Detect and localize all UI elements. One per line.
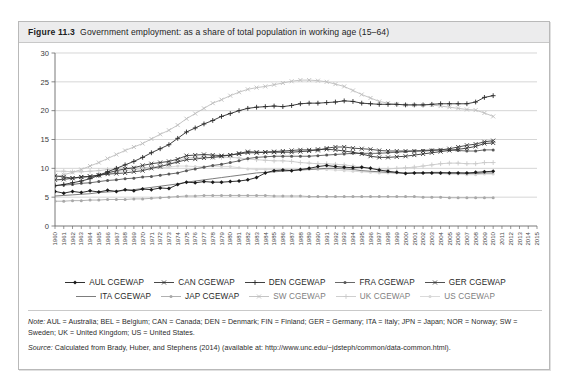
data-marker — [176, 171, 179, 174]
x-tick-label: 1965 — [95, 231, 102, 245]
data-marker — [124, 177, 127, 180]
data-marker — [280, 104, 285, 109]
data-marker — [264, 155, 267, 158]
legend-item-sw[interactable]: SW CGEWAP — [248, 292, 325, 301]
legend-item-den[interactable]: DEN CGEWAP — [244, 278, 326, 287]
legend-item-aul[interactable]: AUL CGEWAP — [64, 278, 144, 287]
data-marker — [237, 179, 241, 183]
x-tick-label: 1984 — [262, 231, 269, 245]
data-marker — [255, 194, 258, 197]
data-marker — [254, 105, 259, 110]
legend-item-us[interactable]: US CGEWAP — [419, 292, 495, 301]
x-tick-label: 1967 — [113, 231, 120, 245]
data-marker — [422, 196, 425, 199]
legend-item-label: DEN CGEWAP — [269, 278, 326, 287]
data-marker — [211, 164, 214, 167]
data-marker — [465, 196, 468, 199]
data-marker — [229, 165, 232, 168]
legend-item-label: CAN CGEWAP — [178, 278, 235, 287]
data-marker — [167, 196, 170, 199]
data-marker — [473, 161, 478, 166]
legend-marker-icon — [64, 278, 86, 287]
data-marker — [264, 168, 267, 171]
x-tick-label: 2004 — [437, 231, 444, 245]
x-tick-label: 1961 — [60, 231, 67, 245]
legend-marker-icon — [248, 292, 270, 301]
data-marker — [202, 106, 206, 110]
note-text: AUL = Australia; BEL = Belgium; CAN = Ca… — [28, 318, 517, 337]
data-marker — [238, 166, 241, 169]
series-group — [53, 78, 496, 203]
x-tick-label: 2002 — [419, 231, 426, 245]
data-marker — [106, 198, 109, 201]
data-marker — [492, 196, 495, 199]
data-marker — [298, 160, 303, 165]
x-tick-label: 1976 — [191, 231, 198, 245]
data-marker — [150, 175, 153, 178]
legend-marker-icon — [244, 278, 266, 287]
data-marker — [202, 122, 207, 127]
data-marker — [246, 178, 250, 182]
data-marker — [246, 157, 249, 160]
data-marker — [368, 96, 372, 100]
data-marker — [369, 152, 372, 155]
legend-item-uk[interactable]: UK CGEWAP — [335, 292, 411, 301]
data-marker — [307, 101, 312, 106]
note-label: Note: — [28, 318, 45, 326]
legend-item-jap[interactable]: JAP CGEWAP — [160, 292, 239, 301]
data-marker — [316, 195, 319, 198]
data-marker — [316, 101, 321, 106]
data-marker — [264, 194, 267, 197]
data-marker — [334, 195, 337, 198]
data-marker — [344, 281, 347, 284]
data-marker — [115, 198, 118, 201]
x-tick-label: 1979 — [218, 231, 225, 245]
data-marker — [333, 100, 338, 105]
data-marker — [114, 189, 118, 193]
data-marker — [193, 126, 198, 131]
y-tick-label: 25 — [41, 78, 49, 87]
data-marker — [53, 169, 58, 174]
data-marker — [421, 171, 425, 175]
data-marker — [255, 156, 258, 159]
x-tick-label: 1988 — [297, 231, 304, 245]
data-marker — [176, 165, 179, 168]
line-chart: 0510152025301960196119621963196419651966… — [19, 43, 551, 268]
data-marker — [53, 189, 57, 193]
series-sw — [53, 78, 495, 179]
data-marker — [106, 179, 109, 182]
legend-item-fra[interactable]: FRA CGEWAP — [334, 278, 414, 287]
data-marker — [88, 189, 92, 193]
data-marker — [132, 197, 135, 200]
x-tick-label: 2005 — [446, 231, 453, 245]
x-tick-label: 1989 — [305, 231, 312, 245]
x-tick-label: 1999 — [393, 231, 400, 245]
x-tick-label: 1993 — [340, 231, 347, 245]
x-tick-label: 1969 — [130, 231, 137, 245]
y-tick-label: 10 — [41, 164, 49, 173]
data-marker — [158, 132, 162, 136]
data-marker — [61, 182, 66, 187]
data-marker — [97, 180, 100, 183]
data-marker — [272, 104, 277, 109]
data-marker — [492, 148, 495, 151]
legend-item-ita[interactable]: ITA CGEWAP — [75, 292, 151, 301]
data-marker — [167, 173, 170, 176]
data-marker — [482, 95, 487, 100]
legend-item-can[interactable]: CAN CGEWAP — [153, 278, 235, 287]
data-marker — [343, 169, 346, 172]
x-tick-label: 1991 — [323, 231, 330, 245]
legend-item-ger[interactable]: GER CGEWAP — [424, 278, 506, 287]
data-marker — [378, 152, 381, 155]
x-tick-label: 1962 — [69, 231, 76, 245]
data-marker — [464, 101, 469, 106]
data-marker — [263, 171, 267, 175]
legend-item-label: US CGEWAP — [444, 292, 495, 301]
x-tick-label: 2011 — [498, 231, 505, 245]
y-tick-label: 15 — [41, 135, 49, 144]
x-tick-label: 2001 — [411, 231, 418, 245]
data-marker — [54, 200, 57, 203]
data-marker — [131, 159, 136, 164]
data-marker — [464, 161, 469, 166]
data-marker — [220, 194, 223, 197]
